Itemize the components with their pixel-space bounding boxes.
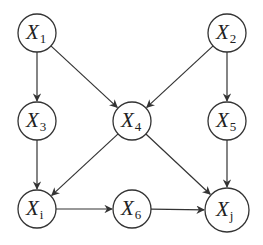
node-label-base: X <box>25 196 40 220</box>
node-x4: X4 <box>113 102 151 140</box>
node-label-subscript: j <box>229 208 234 223</box>
node-label-base: X <box>120 196 135 220</box>
node-label-subscript: 6 <box>135 207 142 222</box>
node-x2: X2 <box>208 14 246 52</box>
node-xj: Xj <box>205 188 249 232</box>
node-label-subscript: 3 <box>40 119 47 134</box>
node-label-base: X <box>120 108 135 132</box>
node-label-base: X <box>25 108 40 132</box>
node-label-subscript: 4 <box>135 119 142 134</box>
node-label-base: X <box>215 197 230 221</box>
node-label-base: X <box>215 20 230 44</box>
edge-x1-to-x4 <box>51 46 117 108</box>
edge-x4-to-xj <box>146 134 210 194</box>
node-label-base: X <box>215 108 230 132</box>
node-xi: Xi <box>18 190 56 228</box>
node-x6: X6 <box>113 190 151 228</box>
node-x5: X5 <box>208 102 246 140</box>
node-label-subscript: i <box>40 207 44 222</box>
node-x1: X1 <box>18 14 56 52</box>
edge-x6-to-xj <box>151 209 204 210</box>
nodes-layer: X1X2X3X4X5XiX6Xj <box>18 14 249 232</box>
edge-x4-to-xi <box>52 134 118 196</box>
node-label-subscript: 2 <box>230 31 237 46</box>
node-label-base: X <box>25 20 40 44</box>
node-label-subscript: 1 <box>40 31 47 46</box>
dag-diagram: X1X2X3X4X5XiX6Xj <box>0 0 263 245</box>
node-label-subscript: 5 <box>230 119 237 134</box>
node-x3: X3 <box>18 102 56 140</box>
edge-x2-to-x4 <box>147 46 213 108</box>
